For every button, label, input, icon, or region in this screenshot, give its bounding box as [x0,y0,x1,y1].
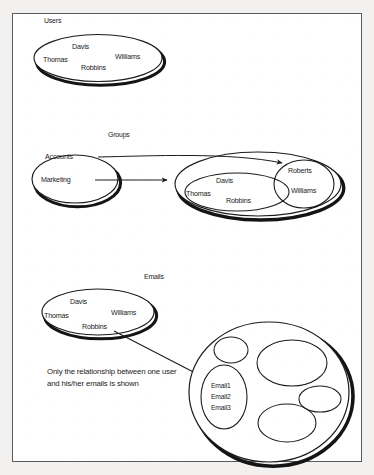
groups-member-davis: Davis [216,176,233,185]
diagram-vector-layer [0,0,374,475]
users-member-thomas: Thomas [43,55,68,64]
users-section-title: Users [44,16,61,25]
emails-caption: Only the relationship between one user a… [47,366,177,389]
email-item-1: Email1 [211,381,231,390]
users-member-williams: Williams [115,52,140,61]
users-member-davis: Davis [72,42,89,51]
emails-member-davis: Davis [70,297,87,306]
emails-section-title: Emails [144,272,164,281]
email-item-2: Email2 [211,392,231,401]
groups-member-robbins: Robbins [226,196,251,205]
emails-member-robbins: Robbins [82,322,107,331]
emails-member-williams: Williams [111,308,136,317]
groups-member-roberts: Roberts [288,166,312,175]
groups-right-outer-ellipse-group [175,152,344,220]
group-name-accounts: Accounts [45,152,73,161]
email-item-3: Email3 [211,403,231,412]
groups-member-thomas: Thomas [186,189,211,198]
groups-section-title: Groups [108,130,130,139]
groups-member-williams: Williams [291,186,316,195]
emails-member-thomas: Thomas [44,311,69,320]
scanned-page-canvas: Users Davis Williams Thomas Robbins Grou… [0,0,374,475]
users-member-robbins: Robbins [81,63,106,72]
group-name-marketing: Marketing [41,175,71,184]
